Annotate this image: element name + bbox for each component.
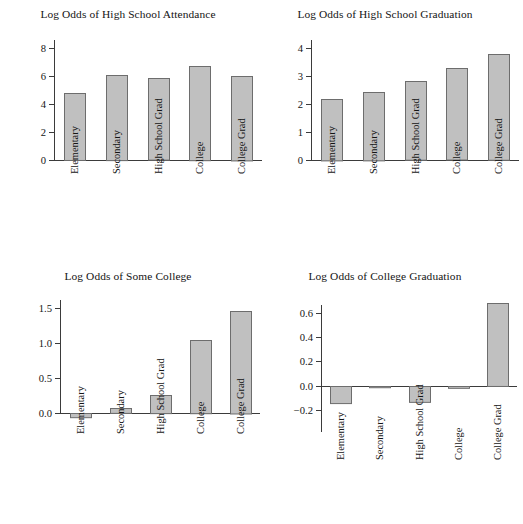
y-axis-tick-label: 1.5 — [39, 303, 52, 314]
x-axis-tick-label: College — [195, 401, 206, 434]
y-axis-tick-label: 0.4 — [300, 332, 314, 343]
y-axis-tick-label: 1.0 — [39, 338, 52, 349]
y-axis-tick-label: 0 — [298, 155, 303, 166]
chart-panel-high-school-graduation: Log Odds of High School Graduation 01234… — [257, 0, 513, 262]
chart-svg: 01234ElementarySecondaryHigh School Grad… — [285, 34, 523, 272]
y-axis-tick-label: 3 — [298, 71, 303, 82]
y-axis-tick-label: 0.0 — [39, 408, 52, 419]
y-axis-tick-label: 2 — [41, 127, 46, 138]
x-axis-tick-label: College Grad — [492, 404, 503, 460]
bar — [449, 387, 470, 389]
x-axis-tick-label: Secondary — [111, 129, 122, 174]
x-axis-tick-label: High School Grad — [414, 384, 425, 460]
y-axis-tick-label: 6 — [41, 71, 46, 82]
x-axis-tick-label: Secondary — [115, 389, 126, 434]
y-axis-tick-label: 4 — [41, 99, 47, 110]
y-axis-tick-label: 0.6 — [300, 308, 313, 319]
x-axis-tick-label: Elementary — [75, 385, 86, 434]
plot-area: −0.20.00.20.40.6ElementarySecondaryHigh … — [295, 292, 523, 524]
x-axis-tick-label: College Grad — [236, 118, 247, 174]
chart-svg: 0.00.51.01.5ElementarySecondaryHigh Scho… — [34, 292, 266, 524]
bar — [331, 387, 352, 404]
y-axis-tick-label: 4 — [298, 43, 304, 54]
x-axis-tick-label: College — [194, 141, 205, 174]
plot-area: 01234ElementarySecondaryHigh School Grad… — [285, 34, 523, 272]
x-axis-tick-label: College — [453, 427, 464, 460]
bar — [370, 387, 391, 388]
plot-area: 02468ElementarySecondaryHigh School Grad… — [28, 34, 268, 272]
plot-area: 0.00.51.01.5ElementarySecondaryHigh Scho… — [34, 292, 266, 524]
x-axis-tick-label: High School Grad — [155, 358, 166, 434]
chart-panel-some-college: Log Odds of Some College 0.00.51.01.5Ele… — [0, 262, 256, 524]
x-axis-tick-label: Secondary — [368, 129, 379, 174]
x-axis-tick-label: High School Grad — [153, 98, 164, 174]
bar — [488, 304, 509, 387]
y-axis-tick-label: 0 — [41, 155, 46, 166]
x-axis-tick-label: Elementary — [326, 125, 337, 174]
chart-title: Log Odds of Some College — [0, 270, 256, 282]
y-axis-tick-label: 0.5 — [39, 373, 52, 384]
y-axis-tick-label: 1 — [298, 127, 303, 138]
x-axis-tick-label: Elementary — [335, 411, 346, 460]
x-axis-tick-label: College Grad — [493, 118, 504, 174]
chart-title: Log Odds of College Graduation — [257, 270, 513, 282]
y-axis-tick-label: 8 — [41, 43, 46, 54]
x-axis-tick-label: Elementary — [69, 125, 80, 174]
y-axis-tick-label: 0.0 — [300, 381, 313, 392]
chart-svg: −0.20.00.20.40.6ElementarySecondaryHigh … — [295, 292, 523, 524]
x-axis-tick-label: High School Grad — [410, 98, 421, 174]
chart-title: Log Odds of High School Attendance — [0, 8, 256, 20]
chart-title: Log Odds of High School Graduation — [257, 8, 513, 20]
chart-panel-college-graduation: Log Odds of College Graduation −0.20.00.… — [257, 262, 513, 524]
y-axis-tick-label: −0.2 — [294, 405, 313, 416]
x-axis-tick-label: College Grad — [235, 378, 246, 434]
y-axis-tick-label: 0.2 — [300, 356, 313, 367]
chart-panel-high-school-attendance: Log Odds of High School Attendance 02468… — [0, 0, 256, 262]
x-axis-tick-label: Secondary — [374, 415, 385, 460]
y-axis-tick-label: 2 — [298, 99, 303, 110]
x-axis-tick-label: College — [451, 141, 462, 174]
chart-svg: 02468ElementarySecondaryHigh School Grad… — [28, 34, 268, 272]
